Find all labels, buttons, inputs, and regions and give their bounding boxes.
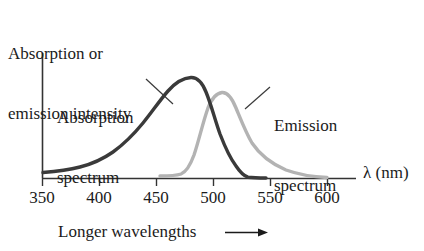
y-axis-title-line1: Absorption or (8, 44, 131, 64)
spectra-figure: Absorption or emission intensity Absorpt… (0, 0, 424, 251)
right-arrow-icon (225, 229, 268, 237)
emission-spectrum-label: Emission spectrum (274, 76, 337, 236)
emission-leader-line (245, 87, 270, 109)
direction-note: Longer wavelengths (58, 222, 196, 242)
absorption-label-line2: spectrum (57, 168, 134, 188)
x-tick-label-450: 450 (143, 188, 169, 208)
emission-label-line1: Emission (274, 116, 337, 136)
x-tick-label-400: 400 (86, 188, 112, 208)
x-tick-label-350: 350 (29, 188, 55, 208)
x-tick-label-500: 500 (200, 188, 226, 208)
absorption-label-line1: Absorption (57, 108, 134, 128)
x-axis-label: λ (nm) (363, 163, 409, 183)
x-tick-label-550: 550 (257, 188, 283, 208)
x-tick-label-600: 600 (314, 188, 340, 208)
